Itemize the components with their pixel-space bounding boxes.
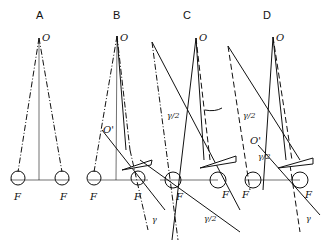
panel-d-angle-top: γ/2 (243, 111, 256, 121)
panel-c-title: C (183, 10, 191, 20)
panel-d-point-o: O (276, 33, 284, 43)
panel-a-lines (10, 38, 70, 185)
panel-d-angle-mid: γ/2 (258, 152, 271, 162)
panel-b-point-o-prime: O' (103, 125, 114, 135)
panel-b-angle-gamma: γ (152, 215, 157, 225)
panel-a-point-o: O (42, 33, 50, 43)
panel-b-lines (87, 36, 165, 230)
panel-d-angle-bottom: γ (306, 214, 311, 224)
panel-d-title: D (263, 10, 271, 20)
binocular-prism-diagram: A B C D O F F O O' F F γ O γ/2 F F γ/2 O… (0, 0, 330, 241)
panel-d-right-eye-label: F (305, 190, 312, 200)
panel-c-angle-bottom: γ/2 (204, 214, 217, 224)
panel-d-point-o-prime: O' (250, 136, 261, 146)
panel-d-lines (228, 37, 320, 232)
panel-d-left-eye-label: F (242, 190, 249, 200)
panel-b-point-o: O (120, 33, 128, 43)
panel-a-title: A (36, 10, 43, 20)
panel-c-point-o: O (199, 33, 207, 43)
panel-c-angle-top: γ/2 (167, 111, 180, 121)
panel-a-left-eye-label: F (14, 192, 21, 202)
panel-b-left-eye-label: F (90, 192, 97, 202)
panel-b-right-eye-label: F (134, 192, 141, 202)
panel-c-right-eye-label: F (222, 190, 229, 200)
panel-c-lines (140, 38, 240, 240)
panel-a-right-eye-label: F (60, 192, 67, 202)
panel-c-left-eye-label: F (176, 192, 183, 202)
panel-b-title: B (113, 10, 120, 20)
